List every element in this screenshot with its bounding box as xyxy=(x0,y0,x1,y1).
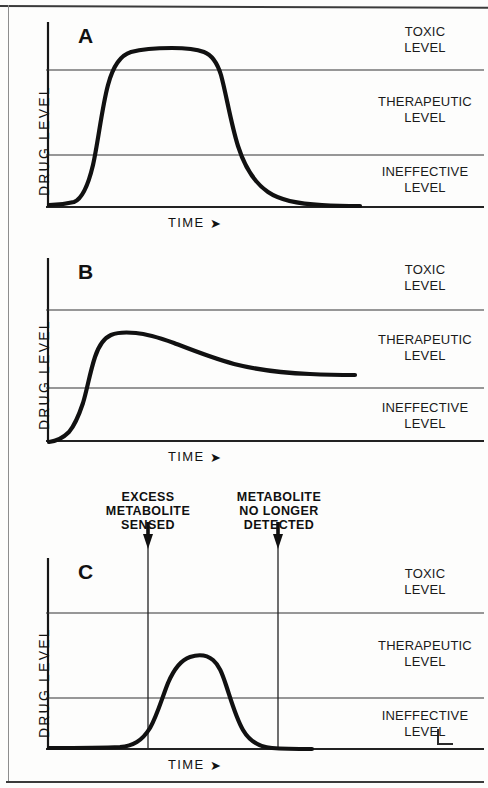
panel-c-letter: C xyxy=(78,560,93,584)
panel-a-x-axis-text: TIME xyxy=(168,215,205,230)
time-arrow-icon: ➤ xyxy=(210,216,222,231)
panel-b-x-axis-label: TIME➤ xyxy=(168,449,222,464)
panel-a-toxic-level-label: TOXIC LEVEL xyxy=(366,24,484,56)
panel-c-annotation-right: METABOLITE NO LONGER DETECTED xyxy=(220,490,338,532)
panel-a-y-axis-label: DRUG LEVEL xyxy=(36,85,52,196)
panel-b: B DRUG LEVEL TIME➤ TOXIC LEVEL THERAPEUT… xyxy=(0,240,488,470)
panel-c-x-axis-label: TIME➤ xyxy=(168,757,222,772)
panel-a-curve xyxy=(49,48,360,206)
panel-c: EXCESS METABOLITE SENSED METABOLITE NO L… xyxy=(0,470,488,788)
panel-a: A DRUG LEVEL TIME➤ TOXIC LEVEL THERAPEUT… xyxy=(0,0,488,240)
figure-container: A DRUG LEVEL TIME➤ TOXIC LEVEL THERAPEUT… xyxy=(0,0,488,788)
panel-a-letter: A xyxy=(78,24,93,48)
panel-b-therapeutic-level-label: THERAPEUTIC LEVEL xyxy=(366,332,484,364)
panel-b-toxic-level-label: TOXIC LEVEL xyxy=(366,262,484,294)
panel-c-y-axis-label: DRUG LEVEL xyxy=(36,627,52,738)
panel-b-curve xyxy=(49,332,355,442)
panel-c-toxic-level-label: TOXIC LEVEL xyxy=(366,566,484,598)
panel-a-therapeutic-level-label: THERAPEUTIC LEVEL xyxy=(366,94,484,126)
panel-a-x-axis-label: TIME➤ xyxy=(168,215,222,230)
panel-c-ineffective-level-label: INEFFECTIVE LEVEL xyxy=(366,708,484,740)
panel-c-x-axis-text: TIME xyxy=(168,757,205,772)
panel-c-arrow-right-icon xyxy=(273,534,283,549)
panel-c-arrow-left-icon xyxy=(143,534,153,549)
panel-c-annotation-left: EXCESS METABOLITE SENSED xyxy=(90,490,206,532)
panel-b-y-axis-label: DRUG LEVEL xyxy=(36,319,52,430)
panel-b-x-axis-text: TIME xyxy=(168,449,205,464)
panel-a-ineffective-level-label: INEFFECTIVE LEVEL xyxy=(366,164,484,196)
time-arrow-icon: ➤ xyxy=(210,758,222,773)
panel-b-ineffective-level-label: INEFFECTIVE LEVEL xyxy=(366,400,484,432)
panel-c-therapeutic-level-label: THERAPEUTIC LEVEL xyxy=(366,638,484,670)
time-arrow-icon: ➤ xyxy=(210,450,222,465)
panel-b-letter: B xyxy=(78,260,93,284)
panel-c-curve xyxy=(49,655,312,749)
